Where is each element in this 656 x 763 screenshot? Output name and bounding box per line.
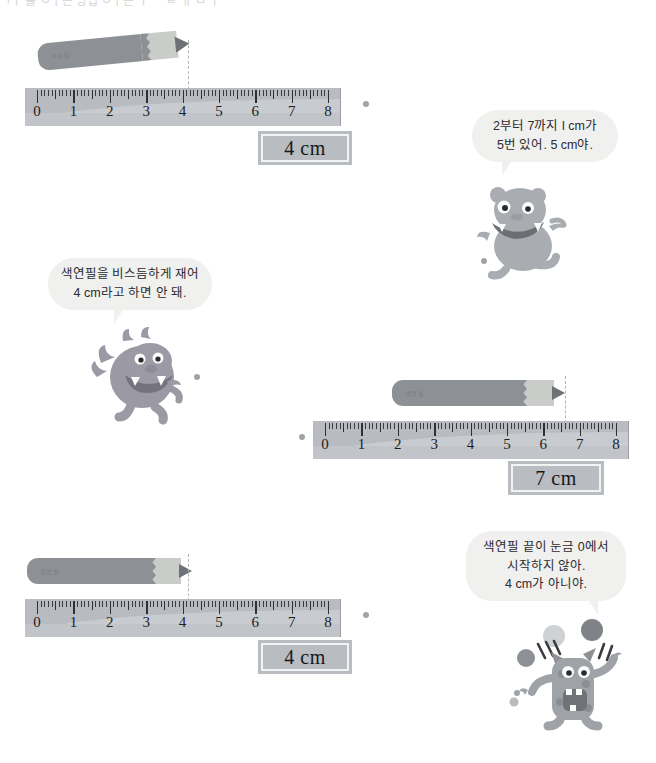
- bubble-dragon-line-1: 색연필을 비스듬하게 재어: [61, 265, 200, 284]
- ruler-tick-minor: [332, 423, 333, 429]
- ruler-tick-major: [580, 423, 581, 436]
- ruler-tick-minor: [84, 601, 85, 607]
- pencil-tip: [179, 564, 192, 578]
- ruler-tick-minor: [383, 423, 384, 429]
- bubble-dragon-line-2: 4 cm라고 하면 안 돼.: [74, 284, 187, 303]
- ruler-tick-minor: [117, 90, 118, 96]
- ruler-tick-minor: [157, 601, 158, 607]
- exercise-2-dot-marker: [299, 434, 305, 440]
- exercise-2-answer-box[interactable]: 7 cm: [508, 461, 604, 495]
- ruler-tick-minor: [266, 601, 267, 607]
- ruler-tick-minor: [313, 90, 314, 96]
- ruler-tick-minor: [423, 423, 424, 429]
- ruler-tick-minor: [387, 423, 388, 429]
- ruler-tick-minor: [135, 601, 136, 607]
- ruler-tick-major: [73, 90, 74, 103]
- ruler-tick-label: 6: [252, 614, 260, 631]
- ruler-tick-minor: [106, 601, 107, 607]
- ruler-tick-minor: [44, 601, 45, 607]
- ruler-tick-minor: [601, 423, 602, 429]
- ruler-tick-minor: [605, 423, 606, 429]
- ruler-tick-minor: [324, 601, 325, 607]
- ruler-tick-minor: [208, 90, 209, 96]
- ruler-tick-half: [164, 601, 165, 610]
- ruler-tick-minor: [157, 90, 158, 96]
- ruler-tick-minor: [427, 423, 428, 429]
- ruler-tick-half: [92, 601, 93, 610]
- ruler-tick-label: 8: [612, 436, 620, 453]
- ruler-tick-minor: [172, 90, 173, 96]
- ruler-tick-minor: [230, 90, 231, 96]
- ruler-tick-minor: [215, 90, 216, 96]
- ruler-tick-half: [128, 90, 129, 99]
- ruler-tick-minor: [536, 423, 537, 429]
- ruler-tick-major: [219, 601, 220, 614]
- ruler-tick-minor: [303, 601, 304, 607]
- ruler-tick-minor: [270, 601, 271, 607]
- exercise-3-ruler: 012345678: [25, 599, 340, 637]
- ruler-tick-minor: [99, 601, 100, 607]
- ruler-tick-minor: [81, 90, 82, 96]
- ruler-tick-minor: [248, 601, 249, 607]
- ruler-tick-minor: [313, 601, 314, 607]
- ruler-tick-label: 7: [288, 103, 296, 120]
- ruler-tick-minor: [376, 423, 377, 429]
- ruler-tick-minor: [340, 423, 341, 429]
- ruler-tick-major: [110, 601, 111, 614]
- exercise-3-answer-box[interactable]: 4 cm: [258, 640, 352, 674]
- ruler-tick-minor: [117, 601, 118, 607]
- ruler-tick-minor: [299, 601, 300, 607]
- ruler-tick-minor: [88, 90, 89, 96]
- ruler-tick-minor: [576, 423, 577, 429]
- ruler-tick-minor: [88, 601, 89, 607]
- ruler-tick-half: [380, 423, 381, 432]
- ruler-tick-minor: [70, 601, 71, 607]
- exercise-3-pencil: 색연필: [27, 558, 190, 584]
- ruler-tick-minor: [66, 90, 67, 96]
- ruler-tick-minor: [554, 423, 555, 429]
- ruler-tick-minor: [306, 601, 307, 607]
- ruler-tick-minor: [518, 423, 519, 429]
- ruler-tick-minor: [277, 601, 278, 607]
- ruler-tick-minor: [299, 90, 300, 96]
- ruler-tick-minor: [52, 90, 53, 96]
- ruler-tick-major: [361, 423, 362, 436]
- ruler-tick-label: 2: [106, 103, 114, 120]
- ruler-tick-minor: [500, 423, 501, 429]
- ruler-tick-minor: [168, 90, 169, 96]
- ruler-tick-minor: [208, 601, 209, 607]
- exercise-2-answer-value: 7 cm: [535, 467, 576, 490]
- ruler-tick-minor: [84, 90, 85, 96]
- exercise-1-answer-box[interactable]: 4 cm: [258, 131, 352, 165]
- ruler-tick-minor: [190, 90, 191, 96]
- ruler-tick-minor: [132, 90, 133, 96]
- ruler-tick-half: [237, 90, 238, 99]
- ruler-tick-minor: [521, 423, 522, 429]
- ruler-tick-minor: [514, 423, 515, 429]
- ruler-tick-major: [183, 601, 184, 614]
- ruler-tick-minor: [41, 601, 42, 607]
- ruler-tick-minor: [420, 423, 421, 429]
- bubble-tail-icon: [502, 160, 512, 176]
- pencil-label: 색연필: [405, 389, 424, 398]
- ruler-tick-minor: [153, 90, 154, 96]
- ruler-tick-half: [416, 423, 417, 432]
- ruler-tick-minor: [503, 423, 504, 429]
- ruler-tick-half: [164, 90, 165, 99]
- ruler-tick-minor: [259, 601, 260, 607]
- ruler-tick-minor: [99, 90, 100, 96]
- ruler-tick-minor: [124, 90, 125, 96]
- ruler-tick-minor: [321, 90, 322, 96]
- ruler-tick-minor: [409, 423, 410, 429]
- ruler-tick-half: [310, 601, 311, 610]
- ruler-ticks: 012345678: [313, 421, 628, 459]
- exercise-3-dot-marker: [363, 612, 369, 618]
- ruler-tick-major: [507, 423, 508, 436]
- ruler-tick-minor: [460, 423, 461, 429]
- ruler-tick-minor: [336, 423, 337, 429]
- pencil-tip: [552, 386, 565, 400]
- ruler-tick-minor: [474, 423, 475, 429]
- ruler-tick-minor: [394, 423, 395, 429]
- ruler-tick-minor: [492, 423, 493, 429]
- ruler-tick-label: 2: [394, 436, 402, 453]
